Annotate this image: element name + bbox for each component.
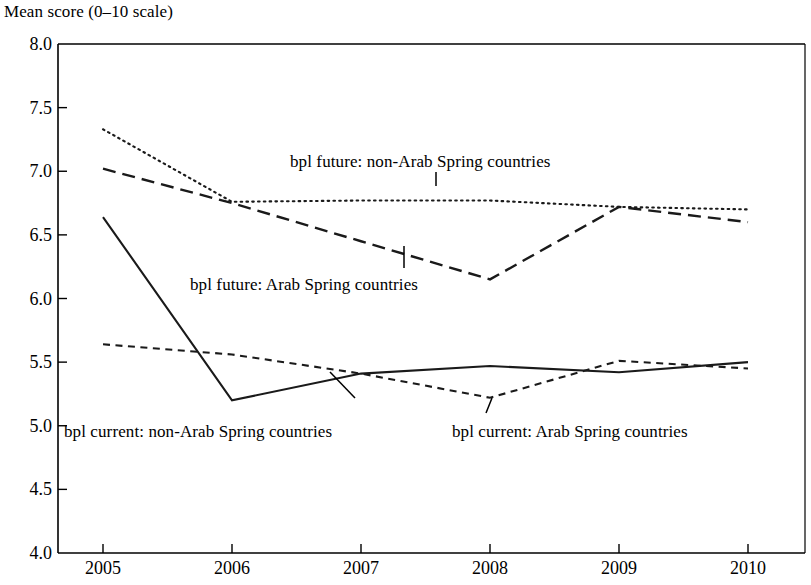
x-axis-tick-label: 2007	[321, 558, 401, 578]
series-line-long-dashed	[103, 169, 748, 280]
x-axis-tick-label: 2008	[450, 558, 530, 578]
x-axis-tick-label: 2009	[579, 558, 659, 578]
annot-current-arab: bpl current: Arab Spring countries	[452, 422, 688, 441]
plot-frame	[58, 44, 805, 553]
chart-axis-title: Mean score (0–10 scale)	[4, 2, 173, 22]
y-axis-tick-label: 6.5	[6, 226, 52, 244]
series-line-solid	[103, 217, 748, 400]
y-axis-tick-label: 4.0	[6, 544, 52, 562]
y-axis-tick-label: 7.5	[6, 99, 52, 117]
series-line-short-dashed	[103, 344, 748, 397]
x-axis-tick-label: 2005	[63, 558, 143, 578]
y-axis-tick-label: 8.0	[6, 35, 52, 53]
annot-current-nonarab: bpl current: non-Arab Spring countries	[64, 422, 332, 441]
x-axis-tick-label: 2010	[708, 558, 788, 578]
y-axis-tick-label: 6.0	[6, 290, 52, 308]
axis-ticks	[58, 108, 748, 553]
y-axis-tick-label: 5.0	[6, 417, 52, 435]
y-axis-tick-label: 5.5	[6, 353, 52, 371]
y-axis-tick-label: 7.0	[6, 162, 52, 180]
annot-future-arab: bpl future: Arab Spring countries	[190, 275, 418, 294]
line-chart: Mean score (0–10 scale) 8.07.57.06.56.05…	[0, 0, 811, 585]
x-axis-tick-label: 2006	[192, 558, 272, 578]
y-axis-tick-label: 4.5	[6, 480, 52, 498]
annot-future-nonarab: bpl future: non-Arab Spring countries	[290, 152, 551, 171]
